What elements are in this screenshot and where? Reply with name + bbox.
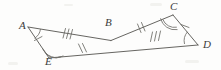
segment-e-b-d [49,45,198,58]
vertex-label-d: D [203,39,211,50]
tick-marks-segment-b-c [138,23,146,33]
tick-marks-segment-a-b [63,29,73,40]
tick-marks-segment-b-d [151,31,161,42]
vertex-label-b: B [105,17,112,28]
vertex-label-c: C [170,1,177,12]
paper-texture [8,3,199,65]
geometry-figure: A B C D E [0,0,221,70]
angle-arc-d [184,32,187,44]
vertex-label-e: E [45,56,52,67]
vertex-label-a: A [19,20,26,31]
tick-marks-segment-e-b [79,44,87,53]
angle-arc-c [161,18,178,29]
angle-arc-a [35,29,41,38]
segment-b-c [111,15,173,41]
geometry-diagram-svg [0,0,221,70]
